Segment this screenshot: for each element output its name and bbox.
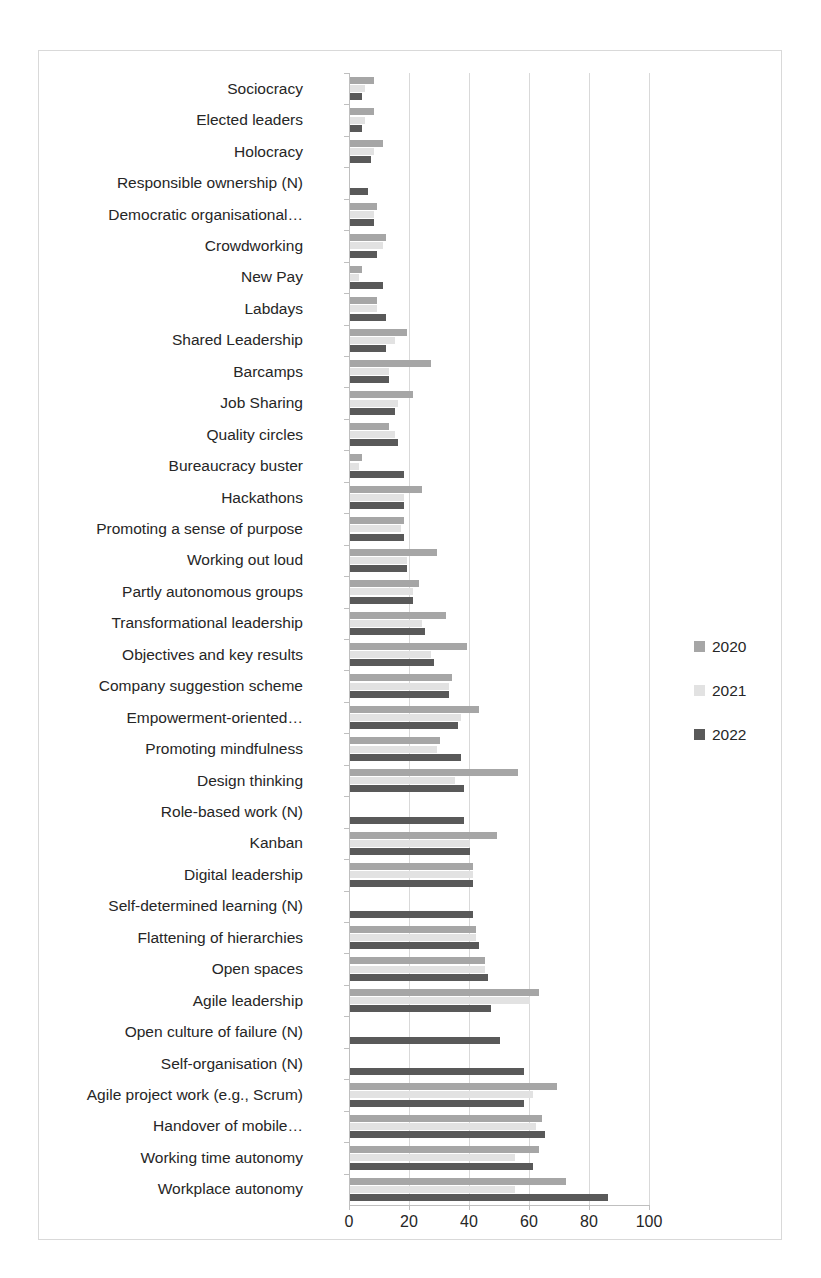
bar-2021 xyxy=(350,620,422,627)
legend-swatch-icon xyxy=(694,685,705,696)
category-label: Sociocracy xyxy=(39,81,311,97)
bar-2020 xyxy=(350,769,518,776)
x-tickmark xyxy=(529,1205,530,1210)
category-label: Open culture of failure (N) xyxy=(39,1024,311,1040)
category-label: Responsible ownership (N) xyxy=(39,175,311,191)
category-tickmark xyxy=(344,922,349,923)
bar-2022 xyxy=(350,691,449,698)
category-label: Kanban xyxy=(39,835,311,851)
bar-2022 xyxy=(350,754,461,761)
axis-baseline xyxy=(349,1205,649,1206)
x-axis-tick-label: 20 xyxy=(400,1213,418,1231)
chart-frame: SociocracyElected leadersHolocracyRespon… xyxy=(38,50,782,1240)
bar-2020 xyxy=(350,1178,566,1185)
bar-2020 xyxy=(350,832,497,839)
category-tickmark xyxy=(344,387,349,388)
bar-2020 xyxy=(350,674,452,681)
category-tickmark xyxy=(344,1079,349,1080)
bar-2022 xyxy=(350,911,473,918)
category-label: Democratic organisational… xyxy=(39,207,311,223)
category-label: Handover of mobile… xyxy=(39,1118,311,1134)
bar-2020 xyxy=(350,706,479,713)
category-label: Working time autonomy xyxy=(39,1150,311,1166)
bar-2021 xyxy=(350,651,431,658)
legend-label: 2022 xyxy=(712,727,746,743)
bar-2020 xyxy=(350,989,539,996)
bar-2020 xyxy=(350,454,362,461)
category-tickmark xyxy=(344,230,349,231)
bar-2021 xyxy=(350,997,530,1004)
category-tickmark xyxy=(344,1048,349,1049)
category-label: Elected leaders xyxy=(39,112,311,128)
x-tickmark xyxy=(469,1205,470,1210)
bar-2021 xyxy=(350,746,437,753)
category-tickmark xyxy=(344,608,349,609)
category-tickmark xyxy=(344,356,349,357)
bar-2021 xyxy=(350,242,383,249)
category-tickmark xyxy=(344,73,349,74)
category-label: Workplace autonomy xyxy=(39,1181,311,1197)
bar-2021 xyxy=(350,777,455,784)
category-tickmark xyxy=(344,1174,349,1175)
bar-2020 xyxy=(350,863,473,870)
bar-2022 xyxy=(350,880,473,887)
category-tickmark xyxy=(344,262,349,263)
bar-2021 xyxy=(350,557,407,564)
category-tickmark xyxy=(344,639,349,640)
category-tickmark xyxy=(344,828,349,829)
gridline xyxy=(589,73,590,1205)
bar-2021 xyxy=(350,463,359,470)
plot-area: 020406080100 xyxy=(349,73,649,1205)
bar-2021 xyxy=(350,588,413,595)
x-axis-tick-label: 100 xyxy=(636,1213,663,1231)
bar-2022 xyxy=(350,1005,491,1012)
category-tickmark xyxy=(344,450,349,451)
bar-2020 xyxy=(350,391,413,398)
bar-2020 xyxy=(350,234,386,241)
category-tickmark xyxy=(344,293,349,294)
bar-2020 xyxy=(350,77,374,84)
category-label: Self-determined learning (N) xyxy=(39,898,311,914)
x-axis-tick-label: 40 xyxy=(460,1213,478,1231)
bar-2021 xyxy=(350,337,395,344)
bar-2020 xyxy=(350,1083,557,1090)
category-label: Labdays xyxy=(39,301,311,317)
bar-2021 xyxy=(350,274,359,281)
bar-2022 xyxy=(350,471,404,478)
bar-2021 xyxy=(350,1123,536,1130)
bar-2022 xyxy=(350,156,371,163)
category-label: Holocracy xyxy=(39,144,311,160)
category-tickmark xyxy=(344,576,349,577)
bar-2020 xyxy=(350,580,419,587)
category-tickmark xyxy=(344,167,349,168)
bar-2022 xyxy=(350,597,413,604)
gridline xyxy=(469,73,470,1205)
bar-2022 xyxy=(350,628,425,635)
bar-2022 xyxy=(350,502,404,509)
bar-2021 xyxy=(350,1186,515,1193)
bar-chart: SociocracyElected leadersHolocracyRespon… xyxy=(39,51,783,1241)
bar-2022 xyxy=(350,93,362,100)
bar-2020 xyxy=(350,1146,539,1153)
category-tickmark xyxy=(344,482,349,483)
x-axis-tick-label: 80 xyxy=(580,1213,598,1231)
bar-2021 xyxy=(350,525,401,532)
category-label: Working out loud xyxy=(39,552,311,568)
category-tickmark xyxy=(344,419,349,420)
category-label: Digital leadership xyxy=(39,867,311,883)
bar-2022 xyxy=(350,785,464,792)
category-tickmark xyxy=(344,545,349,546)
category-tickmark xyxy=(344,199,349,200)
category-label: Agile project work (e.g., Scrum) xyxy=(39,1087,311,1103)
bar-2021 xyxy=(350,966,485,973)
gridline xyxy=(409,73,410,1205)
gridline xyxy=(529,73,530,1205)
bar-2020 xyxy=(350,957,485,964)
category-label: Agile leadership xyxy=(39,993,311,1009)
bar-2022 xyxy=(350,282,383,289)
category-label: Hackathons xyxy=(39,490,311,506)
legend-item-2021[interactable]: 2021 xyxy=(694,683,746,699)
legend-item-2022[interactable]: 2022 xyxy=(694,727,746,743)
legend-item-2020[interactable]: 2020 xyxy=(694,639,746,655)
bar-2020 xyxy=(350,926,476,933)
